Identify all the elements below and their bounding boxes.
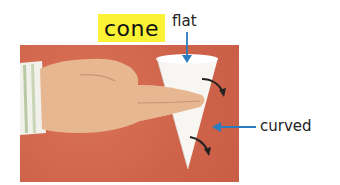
label-curved: curved: [260, 117, 312, 135]
hand-and-cone-illustration: [20, 45, 239, 182]
label-flat: flat: [172, 12, 197, 30]
title-highlight: cone: [98, 14, 165, 42]
cone-photo: [20, 45, 239, 182]
title-text: cone: [104, 16, 159, 41]
